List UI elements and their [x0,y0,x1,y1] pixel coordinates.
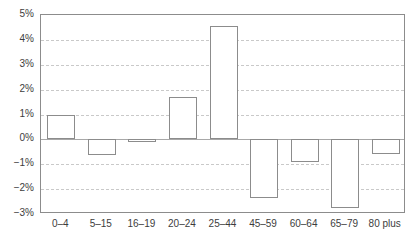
y-axis-tick-label: −3% [0,208,34,218]
x-axis-tick-label: 20–24 [162,218,203,230]
x-axis-tick-label: 65–79 [324,218,365,230]
x-axis-tick-labels: 0–45–1516–1920–2425–4445–5960–6465–7980 … [40,218,405,234]
y-axis-tick-label: 0% [0,133,34,143]
y-axis-tick-label: −2% [0,183,34,193]
x-axis-tick-label: 5–15 [81,218,122,230]
x-axis-tick-label: 16–19 [121,218,162,230]
y-axis-tick-label: 2% [0,84,34,94]
y-axis-tick-label: 4% [0,34,34,44]
y-axis-tick-labels: 5%4%3%2%1%0%−1%−2%−3% [0,14,414,213]
x-axis-tick-label: 60–64 [283,218,324,230]
x-axis-tick-label: 80 plus [364,218,405,230]
bar-chart: 5%4%3%2%1%0%−1%−2%−3% 0–45–1516–1920–242… [0,0,414,242]
x-axis-tick-label: 25–44 [202,218,243,230]
y-axis-tick-label: 1% [0,109,34,119]
y-axis-tick-label: 5% [0,9,34,19]
x-axis-tick-label: 0–4 [40,218,81,230]
y-axis-tick-label: 3% [0,59,34,69]
x-axis-tick-label: 45–59 [243,218,284,230]
y-axis-tick-label: −1% [0,158,34,168]
